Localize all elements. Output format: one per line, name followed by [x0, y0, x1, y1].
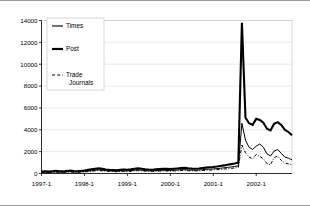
chart-frame: 02000400060008000100001200014000 1997-11…	[0, 0, 310, 206]
y-tick-label: 12000	[20, 39, 38, 46]
x-tick-label: 2001-1	[204, 180, 224, 187]
y-tick-label: 4000	[24, 126, 38, 133]
line-chart: 02000400060008000100001200014000 1997-11…	[0, 1, 310, 206]
y-tick-label: 14000	[20, 17, 38, 24]
y-axis-tick-labels: 02000400060008000100001200014000	[20, 17, 38, 177]
y-tick-label: 2000	[24, 148, 38, 155]
x-tick-label: 1998-1	[75, 180, 95, 187]
legend-label: Post	[66, 45, 79, 52]
legend-label: Trade	[66, 71, 83, 78]
series-line-times	[42, 123, 293, 172]
x-tick-label: 1997-1	[32, 180, 52, 187]
legend-label-line2: Journals	[69, 79, 93, 86]
x-tick-label: 2002-1	[247, 180, 267, 187]
chart-legend: TimesPostTradeJournals	[47, 18, 104, 90]
x-axis-tick-labels: 1997-11998-11999-12000-12001-12002-1	[32, 180, 267, 187]
x-tick-label: 2000-1	[161, 180, 181, 187]
y-tick-label: 6000	[24, 104, 38, 111]
y-tick-label: 10000	[20, 61, 38, 68]
y-tick-label: 0	[34, 170, 38, 177]
y-tick-label: 8000	[24, 82, 38, 89]
x-tick-label: 1999-1	[118, 180, 138, 187]
legend-label: Times	[66, 22, 83, 29]
